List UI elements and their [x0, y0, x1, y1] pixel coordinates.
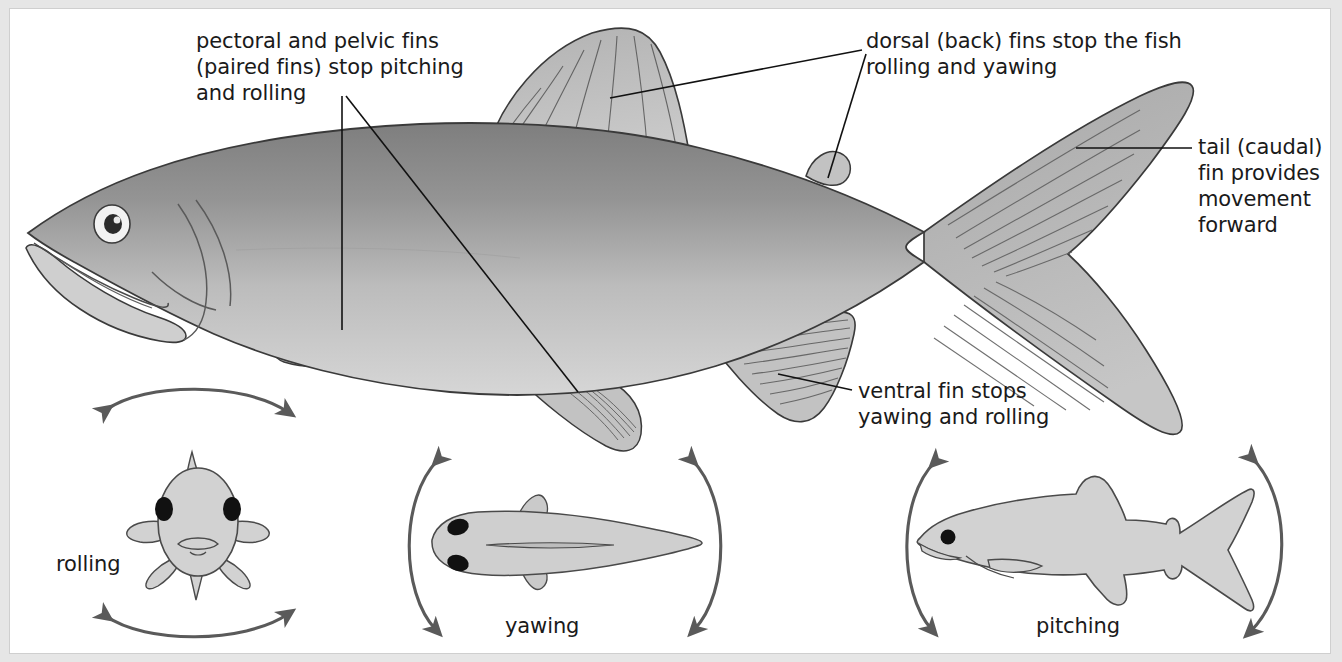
label-pectoral-line3: and rolling [196, 81, 306, 105]
label-pectoral-line2: (paired fins) stop pitching [196, 55, 464, 79]
adipose-fin [806, 152, 850, 186]
figure-page: pectoral and pelvic fins(paired fins) st… [0, 0, 1342, 662]
pitching-diagram [907, 458, 1282, 632]
yawing-fish [432, 495, 702, 589]
label-tail-line2: fin provides [1198, 161, 1320, 185]
pitching-fish [917, 476, 1254, 610]
yawing-diagram [409, 460, 721, 630]
label-tail: tail (caudal)fin providesmovementforward [1198, 134, 1322, 238]
label-ventral: ventral fin stopsyawing and rolling [858, 378, 1049, 430]
label-tail-line1: tail (caudal) [1198, 135, 1322, 159]
label-pectoral-line1: pectoral and pelvic fins [196, 29, 439, 53]
label-pitching: pitching [1036, 613, 1120, 639]
label-ventral-line2: yawing and rolling [858, 405, 1049, 429]
label-pectoral-pelvic: pectoral and pelvic fins(paired fins) st… [196, 28, 464, 106]
label-dorsal: dorsal (back) fins stop the fishrolling … [866, 28, 1182, 80]
label-rolling: rolling [56, 551, 120, 577]
label-yawing: yawing [505, 613, 579, 639]
rolling-fish [127, 452, 270, 600]
label-tail-line3: movement [1198, 187, 1311, 211]
label-dorsal-line2: rolling and yawing [866, 55, 1057, 79]
label-tail-line4: forward [1198, 213, 1278, 237]
label-ventral-line1: ventral fin stops [858, 379, 1027, 403]
label-dorsal-line1: dorsal (back) fins stop the fish [866, 29, 1182, 53]
fish-eye [94, 205, 130, 243]
rolling-diagram [106, 389, 288, 637]
